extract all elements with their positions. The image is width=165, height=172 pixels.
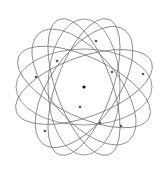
electron-dot [99, 122, 102, 125]
electron-dot [56, 60, 59, 63]
electron-dot [79, 106, 82, 109]
electron-dot [44, 130, 47, 133]
electron-dot [111, 71, 114, 74]
electron-dot [142, 73, 145, 76]
nucleus-dot [82, 85, 85, 88]
electron-dot [120, 125, 123, 128]
electron-dot [35, 76, 38, 79]
electron-dot [95, 40, 98, 43]
atom-diagram [0, 0, 165, 172]
